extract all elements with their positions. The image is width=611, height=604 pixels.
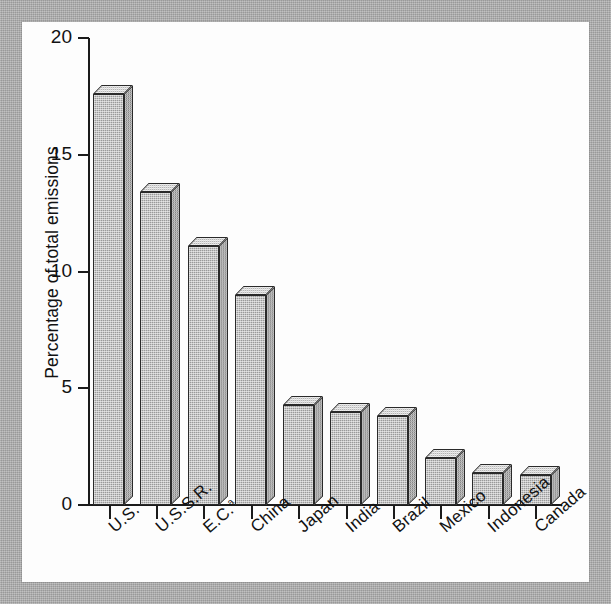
bar-side-face	[361, 403, 370, 505]
bar-front-face	[425, 458, 456, 505]
plot-area: Percentage of total emissions 05101520 U…	[22, 22, 589, 582]
y-axis-tick-label: 5	[61, 376, 72, 398]
bar	[235, 286, 266, 505]
bar	[188, 237, 219, 505]
y-axis-tick	[78, 387, 89, 389]
y-axis-tick-label: 15	[51, 143, 72, 165]
bar	[330, 403, 361, 505]
bar-front-face	[283, 405, 314, 505]
bar-front-face	[188, 246, 219, 505]
y-axis-tick	[78, 271, 89, 273]
y-axis-tick-label: 0	[61, 493, 72, 515]
bar	[283, 396, 314, 505]
chart-paper: Percentage of total emissions 05101520 U…	[22, 22, 589, 582]
y-axis-tick	[78, 154, 89, 156]
bar-front-face	[377, 416, 408, 505]
bar-side-face	[408, 408, 417, 505]
bar-side-face	[124, 85, 133, 505]
bar-front-face	[140, 192, 171, 505]
bar-side-face	[219, 237, 228, 505]
bar	[425, 449, 456, 505]
bar-front-face	[330, 412, 361, 505]
bar	[377, 407, 408, 505]
bar-side-face	[314, 396, 323, 505]
bar-side-face	[171, 183, 180, 505]
bar-side-face	[266, 286, 275, 505]
chart-screenshot: Percentage of total emissions 05101520 U…	[0, 0, 611, 604]
bar-front-face	[93, 94, 124, 505]
y-axis-tick-label: 10	[51, 260, 72, 282]
y-axis-tick-label: 20	[51, 26, 72, 48]
bar	[93, 85, 124, 505]
bar	[140, 183, 171, 505]
y-axis-tick	[78, 504, 89, 506]
bar-front-face	[235, 295, 266, 505]
y-axis-tick	[78, 37, 89, 39]
